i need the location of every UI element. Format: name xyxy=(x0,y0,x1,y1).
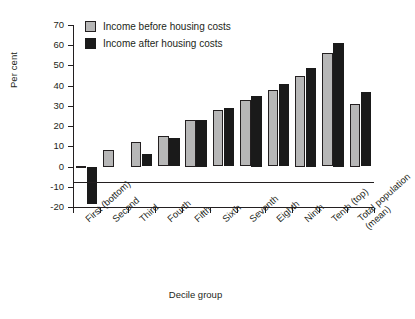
bar-before-0 xyxy=(76,166,87,168)
y-tick-mark xyxy=(68,45,73,46)
y-tick-label: 20 xyxy=(4,121,64,131)
bar-after-7 xyxy=(279,84,290,167)
x-category-label-3: Fourth xyxy=(165,198,193,225)
legend-swatch-after-icon xyxy=(85,38,96,49)
x-tick-mark xyxy=(73,208,74,213)
y-tick-mark xyxy=(68,86,73,87)
bar-after-2 xyxy=(142,154,153,166)
bar-after-0 xyxy=(87,167,98,204)
y-tick-mark xyxy=(68,126,73,127)
bar-after-9 xyxy=(333,43,344,166)
bar-after-5 xyxy=(224,108,235,167)
legend-item-before: Income before housing costs xyxy=(85,19,231,34)
x-category-label-10: Total population(mean) xyxy=(356,171,415,231)
bar-before-9 xyxy=(322,53,333,166)
bar-after-4 xyxy=(196,120,207,167)
x-category-label-5: Sixth xyxy=(220,202,243,224)
y-tick-label: 10 xyxy=(4,141,64,151)
x-axis-title: Decile group xyxy=(0,289,391,300)
bar-after-8 xyxy=(306,68,317,167)
y-tick-mark xyxy=(68,187,73,188)
y-tick-label: 50 xyxy=(4,60,64,70)
x-category-label-2: Third xyxy=(137,202,160,225)
bar-before-8 xyxy=(295,76,306,167)
legend-item-after: Income after housing costs xyxy=(85,36,231,51)
y-tick-mark xyxy=(68,167,73,168)
y-tick-mark xyxy=(68,25,73,26)
bar-before-7 xyxy=(268,90,279,167)
y-tick-label: 30 xyxy=(4,101,64,111)
x-category-label-6: Seventh xyxy=(247,193,280,225)
bar-before-3 xyxy=(158,136,169,166)
y-tick-label: 60 xyxy=(4,40,64,50)
bar-before-6 xyxy=(240,100,251,167)
x-category-label-8: Ninth xyxy=(302,201,326,224)
bar-before-2 xyxy=(131,142,142,166)
bar-before-10 xyxy=(350,104,361,167)
y-axis-line xyxy=(73,25,74,208)
y-tick-mark xyxy=(68,106,73,107)
y-tick-label: -10 xyxy=(4,182,64,192)
legend-label-before: Income before housing costs xyxy=(103,21,231,32)
y-tick-label: 0 xyxy=(4,162,64,172)
bar-after-10 xyxy=(361,92,372,167)
y-tick-mark xyxy=(68,146,73,147)
bar-after-3 xyxy=(169,138,180,166)
bar-after-6 xyxy=(251,96,262,167)
bar-before-4 xyxy=(185,120,196,167)
bar-before-1 xyxy=(103,150,114,166)
y-tick-label: 40 xyxy=(4,81,64,91)
chart-legend: Income before housing costs Income after… xyxy=(85,19,231,53)
legend-label-after: Income after housing costs xyxy=(103,38,223,49)
y-tick-label: -20 xyxy=(4,202,64,212)
legend-swatch-before-icon xyxy=(85,21,96,32)
y-tick-label: 70 xyxy=(4,20,64,30)
bar-before-5 xyxy=(213,110,224,167)
y-tick-mark xyxy=(68,65,73,66)
